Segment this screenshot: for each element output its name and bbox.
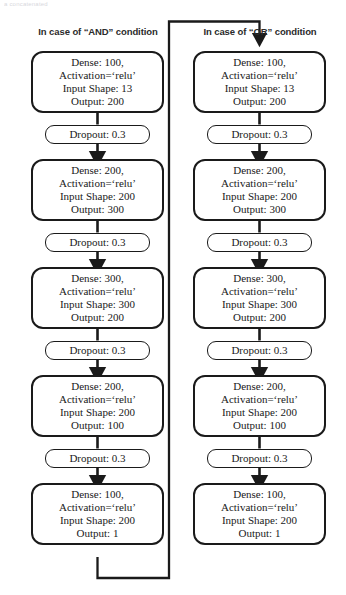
node-line: Dropout: 0.3 bbox=[69, 344, 125, 357]
node-line: Dropout: 0.3 bbox=[69, 236, 125, 249]
node-line: Dropout: 0.3 bbox=[231, 128, 287, 141]
node-line: Activation=‘relu’ bbox=[59, 285, 136, 298]
node-line: Dense: 200, bbox=[233, 380, 286, 393]
node-line: Dense: 100, bbox=[71, 488, 124, 501]
node-line: Activation=‘relu’ bbox=[221, 69, 298, 82]
node-line: Dense: 200, bbox=[71, 380, 124, 393]
node-line: Dropout: 0.3 bbox=[231, 344, 287, 357]
node-line: Dropout: 0.3 bbox=[231, 236, 287, 249]
node-dense-1-or[interactable]: Dense: 100, Activation=‘relu’ Input Shap… bbox=[193, 51, 326, 113]
node-line: Input Shape: 200 bbox=[222, 190, 297, 203]
node-line: Output: 1 bbox=[239, 527, 281, 540]
node-line: Input Shape: 200 bbox=[60, 406, 135, 419]
node-line: Activation=‘relu’ bbox=[59, 69, 136, 82]
node-line: Dense: 300, bbox=[71, 272, 124, 285]
node-line: Dropout: 0.3 bbox=[69, 452, 125, 465]
node-line: Output: 300 bbox=[233, 203, 286, 216]
node-line: Dense: 100, bbox=[71, 56, 124, 69]
node-line: Dense: 100, bbox=[233, 488, 286, 501]
node-line: Activation=‘relu’ bbox=[59, 177, 136, 190]
node-dense-1-and[interactable]: Dense: 100, Activation=‘relu’ Input Shap… bbox=[31, 51, 164, 113]
node-dense-4-and[interactable]: Dense: 200, Activation=‘relu’ Input Shap… bbox=[31, 375, 164, 437]
node-line: Dense: 300, bbox=[233, 272, 286, 285]
node-dense-5-and[interactable]: Dense: 100, Activation=‘relu’ Input Shap… bbox=[31, 483, 164, 545]
node-line: Dense: 200, bbox=[233, 164, 286, 177]
node-line: Input Shape: 200 bbox=[222, 406, 297, 419]
node-line: Input Shape: 300 bbox=[222, 298, 297, 311]
node-line: Activation=‘relu’ bbox=[59, 501, 136, 514]
node-dense-5-or[interactable]: Dense: 100, Activation=‘relu’ Input Shap… bbox=[193, 483, 326, 545]
node-line: Output: 100 bbox=[71, 419, 124, 432]
node-line: Output: 300 bbox=[71, 203, 124, 216]
node-dropout-2-and[interactable]: Dropout: 0.3 bbox=[45, 233, 150, 252]
node-line: Input Shape: 300 bbox=[60, 298, 135, 311]
node-line: Activation=‘relu’ bbox=[221, 393, 298, 406]
node-dropout-1-or[interactable]: Dropout: 0.3 bbox=[207, 125, 312, 144]
node-line: Dense: 100, bbox=[233, 56, 286, 69]
node-dropout-2-or[interactable]: Dropout: 0.3 bbox=[207, 233, 312, 252]
column-header-or: In case of “OR” condition bbox=[186, 26, 334, 37]
node-line: Activation=‘relu’ bbox=[221, 177, 298, 190]
node-dense-3-or[interactable]: Dense: 300, Activation=‘relu’ Input Shap… bbox=[193, 267, 326, 329]
node-line: Input Shape: 13 bbox=[225, 82, 295, 95]
node-line: Input Shape: 200 bbox=[60, 190, 135, 203]
node-dropout-4-and[interactable]: Dropout: 0.3 bbox=[45, 449, 150, 468]
node-dense-2-or[interactable]: Dense: 200, Activation=‘relu’ Input Shap… bbox=[193, 159, 326, 221]
node-dropout-3-and[interactable]: Dropout: 0.3 bbox=[45, 341, 150, 360]
flowchart-diagram: a concatenated bbox=[0, 0, 346, 595]
node-line: Activation=‘relu’ bbox=[221, 285, 298, 298]
node-dense-4-or[interactable]: Dense: 200, Activation=‘relu’ Input Shap… bbox=[193, 375, 326, 437]
node-line: Output: 100 bbox=[233, 419, 286, 432]
node-line: Output: 200 bbox=[233, 95, 286, 108]
node-line: Activation=‘relu’ bbox=[221, 501, 298, 514]
node-line: Output: 200 bbox=[71, 95, 124, 108]
node-line: Input Shape: 13 bbox=[63, 82, 133, 95]
node-line: Dense: 200, bbox=[71, 164, 124, 177]
node-dense-2-and[interactable]: Dense: 200, Activation=‘relu’ Input Shap… bbox=[31, 159, 164, 221]
column-header-and: In case of “AND” condition bbox=[28, 26, 168, 37]
node-dropout-1-and[interactable]: Dropout: 0.3 bbox=[45, 125, 150, 144]
node-dropout-3-or[interactable]: Dropout: 0.3 bbox=[207, 341, 312, 360]
node-line: Input Shape: 200 bbox=[60, 514, 135, 527]
node-line: Activation=‘relu’ bbox=[59, 393, 136, 406]
node-line: Output: 1 bbox=[77, 527, 119, 540]
node-dropout-4-or[interactable]: Dropout: 0.3 bbox=[207, 449, 312, 468]
node-line: Output: 200 bbox=[71, 311, 124, 324]
node-dense-3-and[interactable]: Dense: 300, Activation=‘relu’ Input Shap… bbox=[31, 267, 164, 329]
node-line: Input Shape: 200 bbox=[222, 514, 297, 527]
scan-artifact-text: a concatenated bbox=[4, 1, 82, 7]
node-line: Dropout: 0.3 bbox=[69, 128, 125, 141]
node-line: Dropout: 0.3 bbox=[231, 452, 287, 465]
node-line: Output: 200 bbox=[233, 311, 286, 324]
